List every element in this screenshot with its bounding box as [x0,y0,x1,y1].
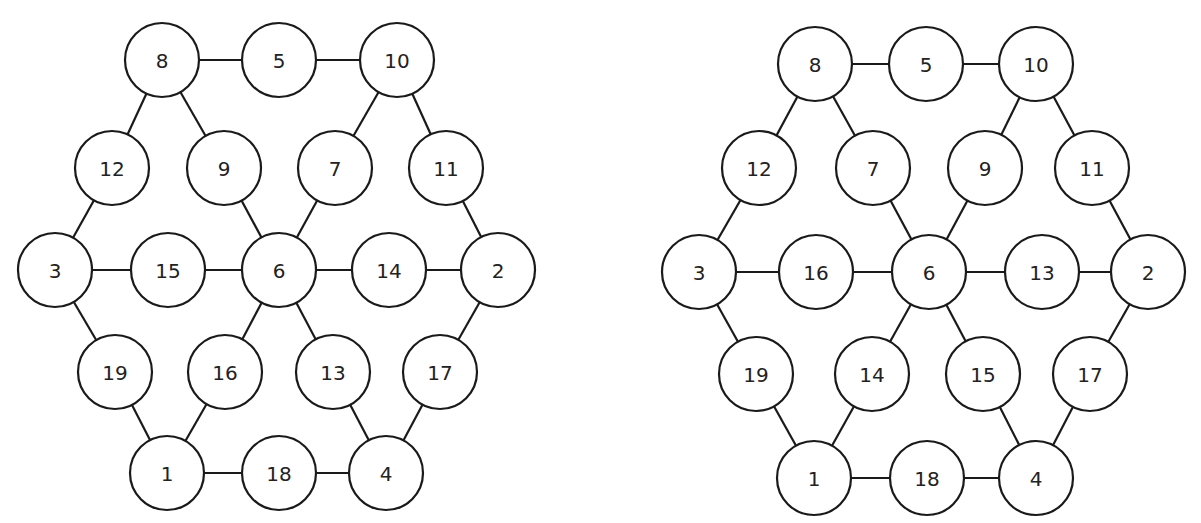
node-label: 11 [433,157,458,181]
node-label: 15 [155,259,180,283]
node-13: 13 [296,335,370,409]
node-label: 19 [102,361,127,385]
node-label: 12 [99,157,124,181]
node-label: 18 [266,462,291,486]
node-label: 16 [212,361,237,385]
node-18: 18 [890,441,964,515]
node-label: 10 [1023,53,1048,77]
node-label: 7 [329,157,342,181]
node-label: 16 [803,261,828,285]
graph-left: 85101297113156142191613171184 [18,23,535,510]
node-9: 9 [948,131,1022,205]
node-11: 11 [409,131,483,205]
node-label: 2 [1142,261,1155,285]
node-1: 1 [130,436,204,510]
node-12: 12 [75,131,149,205]
node-3: 3 [18,233,92,307]
node-label: 3 [49,259,62,283]
node-6: 6 [892,235,966,309]
node-label: 6 [273,259,286,283]
node-4: 4 [999,441,1073,515]
node-16: 16 [779,235,853,309]
node-label: 3 [693,261,706,285]
node-6: 6 [242,233,316,307]
node-13: 13 [1005,235,1079,309]
node-label: 18 [914,467,939,491]
node-15: 15 [131,233,205,307]
node-label: 1 [808,467,821,491]
node-label: 8 [809,53,822,77]
node-17: 17 [403,335,477,409]
node-7: 7 [836,131,910,205]
node-8: 8 [125,23,199,97]
node-5: 5 [889,27,963,101]
node-label: 9 [979,157,992,181]
node-label: 1 [161,462,174,486]
node-label: 12 [746,157,771,181]
node-17: 17 [1053,337,1127,411]
node-3: 3 [662,235,736,309]
node-19: 19 [719,337,793,411]
node-label: 4 [1030,467,1043,491]
node-label: 9 [218,157,231,181]
node-9: 9 [187,131,261,205]
node-11: 11 [1055,131,1129,205]
graph-right: 85101279113166132191415171184 [662,27,1185,515]
node-1: 1 [777,441,851,515]
node-18: 18 [242,436,316,510]
node-4: 4 [349,436,423,510]
node-2: 2 [1111,235,1185,309]
node-14: 14 [835,337,909,411]
node-label: 11 [1079,157,1104,181]
node-label: 5 [920,53,933,77]
node-8: 8 [778,27,852,101]
node-label: 17 [427,361,452,385]
nodes: 85101297113156142191613171184 [18,23,535,510]
node-label: 6 [923,261,936,285]
node-label: 17 [1077,363,1102,387]
node-label: 13 [1029,261,1054,285]
node-12: 12 [722,131,796,205]
node-10: 10 [360,23,434,97]
node-label: 5 [273,49,286,73]
node-5: 5 [242,23,316,97]
node-label: 14 [859,363,884,387]
node-label: 13 [320,361,345,385]
node-15: 15 [946,337,1020,411]
node-19: 19 [78,335,152,409]
node-label: 7 [867,157,880,181]
node-label: 19 [743,363,768,387]
node-label: 4 [380,462,393,486]
node-14: 14 [352,233,426,307]
node-label: 8 [156,49,169,73]
magic-hexagon-diagrams: 85101297113156142191613171184 8510127911… [0,0,1201,523]
node-2: 2 [461,233,535,307]
node-16: 16 [188,335,262,409]
node-10: 10 [999,27,1073,101]
node-label: 2 [492,259,505,283]
node-7: 7 [298,131,372,205]
node-label: 15 [970,363,995,387]
node-label: 10 [384,49,409,73]
node-label: 14 [376,259,401,283]
